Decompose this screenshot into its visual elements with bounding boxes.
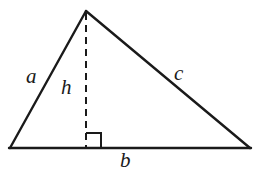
- triangle-side-a: [10, 11, 86, 148]
- triangle-figure: [0, 0, 268, 176]
- triangle-side-c: [86, 11, 250, 148]
- triangle-diagram: a h c b: [0, 0, 268, 176]
- label-side-c: c: [174, 63, 183, 84]
- label-side-a: a: [26, 66, 37, 87]
- right-angle-marker: [86, 133, 101, 148]
- label-height-h: h: [61, 77, 72, 98]
- label-side-b: b: [120, 150, 131, 171]
